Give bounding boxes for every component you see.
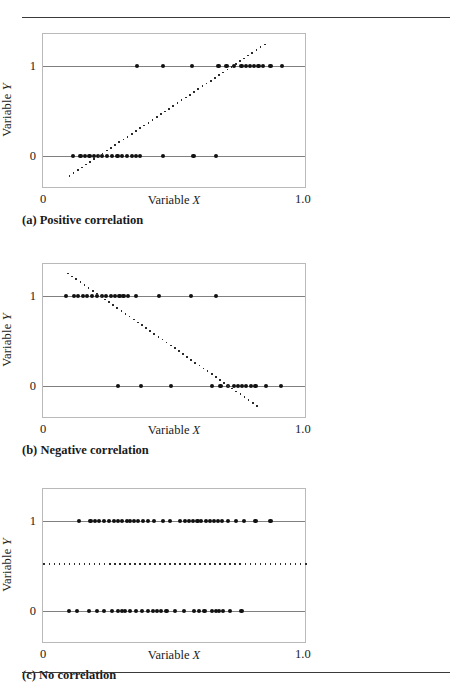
trendline-dot — [137, 322, 139, 324]
trendline-dot — [118, 141, 120, 143]
xtick-0-a: 0 — [40, 193, 46, 206]
caption-a: (a) Positive correlation — [22, 213, 143, 228]
data-point — [141, 519, 145, 523]
trendline-dot — [89, 161, 91, 163]
data-point — [116, 384, 120, 388]
data-point — [105, 154, 109, 158]
trendline-dot — [223, 382, 225, 384]
data-point — [88, 519, 92, 523]
trendline-dot — [206, 83, 208, 85]
data-point — [228, 609, 232, 613]
data-point — [71, 154, 75, 158]
data-point — [140, 609, 144, 613]
trendline-dot — [182, 353, 184, 355]
data-point — [256, 64, 260, 68]
data-point — [264, 384, 268, 388]
data-point — [95, 609, 99, 613]
trendline-dot — [275, 563, 277, 565]
trendline-dot — [229, 563, 231, 565]
data-point — [120, 519, 124, 523]
trendline-dot — [79, 563, 81, 565]
data-point — [67, 609, 71, 613]
trendline-dot — [143, 125, 145, 127]
trendline-dot — [227, 385, 229, 387]
trendline-dot — [252, 402, 254, 404]
trendline-dot — [99, 563, 101, 565]
panel-negative-correlation: 1 0 Variable Y Variable X 0 1.0 (b) Nega… — [0, 263, 474, 463]
trendline-dot — [186, 356, 188, 358]
trendline-dot — [84, 284, 86, 286]
trendline-dot — [305, 563, 307, 565]
trendline-dot — [285, 563, 287, 565]
figure-page: 1 0 Variable Y Variable X 0 1.0 (a) Posi… — [0, 0, 474, 690]
trendline-dot — [204, 563, 206, 565]
xtick-0-b: 0 — [40, 423, 46, 436]
trendline-dot — [247, 55, 249, 57]
data-point — [279, 384, 283, 388]
trendline-dot — [245, 563, 247, 565]
data-point — [90, 294, 94, 298]
data-point — [224, 64, 228, 68]
data-point — [280, 64, 284, 68]
trendline-dot — [265, 563, 267, 565]
data-point — [100, 154, 104, 158]
data-point — [242, 519, 246, 523]
trendline-dot — [139, 563, 141, 565]
trendline-dot — [89, 563, 91, 565]
trendline-dot — [219, 379, 221, 381]
y-axis-label-c: Variable Y — [0, 538, 15, 592]
gridline-y1-a: 1 — [43, 66, 305, 67]
trendline-dot — [172, 105, 174, 107]
data-point — [234, 519, 238, 523]
trendline-dot — [84, 563, 86, 565]
trendline-dot — [109, 563, 111, 565]
trendline-dot — [178, 350, 180, 352]
trendline-dot — [193, 91, 195, 93]
gridline-y1-c: 1 — [43, 521, 305, 522]
data-point — [253, 384, 257, 388]
data-point — [214, 154, 218, 158]
data-point — [221, 609, 225, 613]
data-point — [218, 384, 222, 388]
data-point — [125, 154, 129, 158]
trendline-dot — [199, 365, 201, 367]
trendline-dot — [295, 563, 297, 565]
data-point — [104, 294, 108, 298]
data-point — [102, 609, 106, 613]
data-point — [168, 519, 172, 523]
ytick-1-b: 1 — [30, 290, 36, 303]
trendline-dot — [202, 85, 204, 87]
trendline-dot — [239, 563, 241, 565]
data-point — [161, 154, 165, 158]
data-point — [220, 519, 224, 523]
xtick-1-a: 1.0 — [295, 193, 311, 206]
data-point — [189, 294, 193, 298]
trendline-dot — [170, 345, 172, 347]
data-point — [197, 609, 201, 613]
trendline-dot — [134, 563, 136, 565]
trendline-dot — [64, 563, 66, 565]
data-point — [128, 609, 132, 613]
trendline-dot — [300, 563, 302, 565]
ytick-0-c: 0 — [30, 605, 36, 618]
xtick-0-c: 0 — [40, 648, 46, 661]
trendline-dot — [159, 563, 161, 565]
data-point — [161, 519, 165, 523]
trendline-dot — [80, 281, 82, 283]
data-point — [81, 294, 85, 298]
data-point — [83, 154, 87, 158]
trendline-dot — [92, 290, 94, 292]
trendline-dot — [164, 563, 166, 565]
data-point — [146, 519, 150, 523]
data-point — [159, 609, 163, 613]
trendline-dot — [148, 122, 150, 124]
trendline-dot — [69, 563, 71, 565]
data-point — [214, 294, 218, 298]
xtick-1-c: 1.0 — [295, 648, 311, 661]
trendline-dot — [235, 63, 237, 65]
data-point — [76, 294, 80, 298]
trendline-dot — [181, 99, 183, 101]
data-point — [97, 519, 101, 523]
plot-area-b: 1 0 — [42, 263, 306, 418]
trendline-dot — [234, 563, 236, 565]
